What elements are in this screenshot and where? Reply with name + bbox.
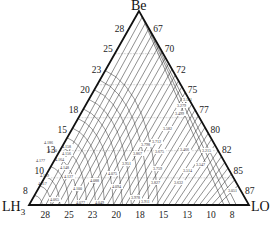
left-axis-tick: 28 [115, 24, 125, 34]
contour-label: 3.632 [174, 180, 183, 185]
contour-label: 4.065 [50, 197, 59, 202]
ternary-diagram: 4.1864.1584.1704.1564.1774.1644.1484.139… [0, 0, 271, 226]
contour-curve [73, 128, 105, 205]
contour-label: 3.582 [163, 126, 172, 131]
bottom-axis-tick: 28 [41, 210, 51, 220]
bottom-axis-tick: 13 [182, 210, 192, 220]
contour-label: 4.127 [64, 174, 73, 179]
contour-label: 3.279 [177, 103, 186, 108]
vertex-label-lh3-sub: 3 [21, 207, 26, 217]
vertex-label-lh3-main: LH [2, 199, 21, 214]
left-axis-tick: 18 [69, 105, 79, 115]
contour-label: 3.466 [180, 147, 189, 152]
contour-line [119, 92, 185, 205]
contour-label: 3.798 [141, 142, 150, 147]
left-axis-tick: 25 [103, 44, 113, 54]
contour-line [150, 122, 202, 205]
contour-label: 4.156 [62, 151, 71, 156]
contour-label: 3.827 [151, 180, 160, 185]
contour-label: 4.094 [112, 184, 121, 189]
contour-label: 3.951 [122, 161, 131, 166]
contour-label: 3.675 [155, 149, 164, 154]
right-axis-tick: 80 [211, 125, 221, 135]
right-axis-tick: 67 [153, 24, 163, 34]
contour-curve [34, 195, 42, 205]
right-axis-tick: 75 [188, 85, 198, 95]
left-axis-tick: 8 [23, 186, 28, 196]
bottom-axis-tick: 18 [135, 210, 145, 220]
contour-label: 3.978 [131, 195, 140, 200]
contour-line [40, 17, 143, 205]
vertex-label-lo: LO [251, 199, 270, 214]
contour-label: 4.088 [90, 178, 99, 183]
right-axis-tick: 72 [176, 65, 186, 75]
contour-label: 3.499 [175, 111, 184, 116]
contour-label: 3.867 [133, 151, 142, 156]
bottom-axis-tick: 8 [230, 210, 235, 220]
bottom-axis-tick: 25 [64, 210, 74, 220]
contour-label: 4.177 [36, 158, 45, 163]
left-axis-tick: 20 [80, 85, 90, 95]
left-axis-tick: 10 [34, 166, 44, 176]
right-axis-tick: 82 [222, 145, 232, 155]
contour-label: 3.759 [153, 166, 162, 171]
contour-label: 3.051 [228, 188, 237, 193]
vertex-label-be: Be [131, 0, 147, 13]
right-axis-tick: 85 [234, 166, 244, 176]
bottom-axis-tick: 10 [206, 210, 216, 220]
contour-label: 3.514 [183, 168, 192, 173]
right-axis-tick: 70 [165, 44, 175, 54]
vertex-label-lh3: LH3 [2, 199, 26, 217]
contour-label: 3.911 [141, 199, 150, 204]
contour-line [141, 15, 224, 205]
contour-label: 4.148 [60, 165, 69, 170]
contour-line [145, 21, 230, 205]
contour-label: 3.712 [152, 139, 161, 144]
bottom-axis-tick: 23 [88, 210, 98, 220]
contour-label: 4.075 [108, 171, 117, 176]
left-axis-tick: 13 [46, 145, 56, 155]
contour-label: 3.547 [196, 162, 205, 167]
left-axis-tick: 23 [92, 65, 102, 75]
contour-label: 3.215 [202, 148, 211, 153]
contour-label: 4.186 [44, 140, 53, 145]
left-axis-tick: 15 [57, 125, 67, 135]
contour-label: 4.100 [73, 186, 82, 191]
right-axis-tick: 87 [245, 186, 255, 196]
ternary-plot: 4.1864.1584.1704.1564.1774.1644.1484.139… [0, 0, 271, 226]
bottom-axis-tick: 20 [112, 210, 122, 220]
bottom-axis-tick: 15 [159, 210, 169, 220]
right-axis-tick: 77 [199, 105, 209, 115]
